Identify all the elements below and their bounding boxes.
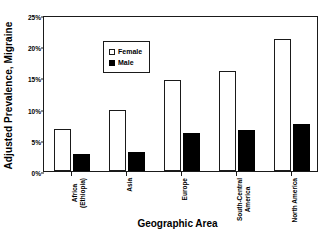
y-axis-title: Adjusted Prevalence, Migraine <box>0 0 18 190</box>
legend-item-male: Male <box>109 57 142 68</box>
bar-female-0 <box>54 129 71 171</box>
bar-female-3 <box>219 71 236 171</box>
x-category-label-text: Europe <box>181 178 189 200</box>
bar-female-4 <box>274 39 291 171</box>
bar-male-1 <box>128 152 145 171</box>
y-tick-mark <box>41 141 44 142</box>
legend-item-female: Female <box>109 46 142 57</box>
legend-label-female: Female <box>118 48 142 55</box>
x-axis-title: Geographic Area <box>35 218 320 229</box>
x-category-label-text: South-CentralAmerica <box>236 178 251 221</box>
x-category-label: South-CentralAmerica <box>206 178 266 192</box>
migraine-prevalence-chart: Adjusted Prevalence, Migraine 0%5%10%15%… <box>0 0 323 240</box>
y-tick-label: 20% <box>28 45 41 52</box>
x-category-label-text: Africa(Ethiopia) <box>71 178 86 208</box>
legend: Female Male <box>103 41 150 73</box>
y-tick-mark <box>41 173 44 174</box>
legend-label-male: Male <box>118 59 134 66</box>
bar-male-4 <box>293 124 310 171</box>
y-tick-mark <box>41 79 44 80</box>
x-category-label: Europe <box>151 178 211 192</box>
x-category-label: Africa(Ethiopia) <box>41 178 101 192</box>
x-category-label: North America <box>261 178 321 192</box>
open-square-icon <box>109 49 115 55</box>
y-axis-title-text: Adjusted Prevalence, Migraine <box>4 21 15 169</box>
x-tick-mark <box>181 172 182 176</box>
bar-female-1 <box>109 110 126 171</box>
y-tick-label: 0% <box>32 170 41 177</box>
y-tick-label: 10% <box>28 107 41 114</box>
x-tick-mark <box>71 172 72 176</box>
y-tick-label: 5% <box>32 138 41 145</box>
y-tick-label: 25% <box>28 14 41 21</box>
y-tick-mark <box>41 110 44 111</box>
y-tick-mark <box>41 17 44 18</box>
bar-male-2 <box>183 133 200 171</box>
x-tick-mark <box>291 172 292 176</box>
x-category-label: Asia <box>96 178 156 192</box>
x-tick-mark <box>236 172 237 176</box>
plot-area: 0%5%10%15%20%25% Female Male <box>43 16 318 172</box>
bar-female-2 <box>164 80 181 171</box>
y-tick-mark <box>41 48 44 49</box>
bar-male-0 <box>73 154 90 171</box>
x-tick-mark <box>126 172 127 176</box>
x-category-label-text: Asia <box>126 178 134 192</box>
bar-male-3 <box>238 130 255 171</box>
x-category-label-text: North America <box>291 178 299 223</box>
filled-square-icon <box>109 60 115 66</box>
y-tick-label: 15% <box>28 76 41 83</box>
